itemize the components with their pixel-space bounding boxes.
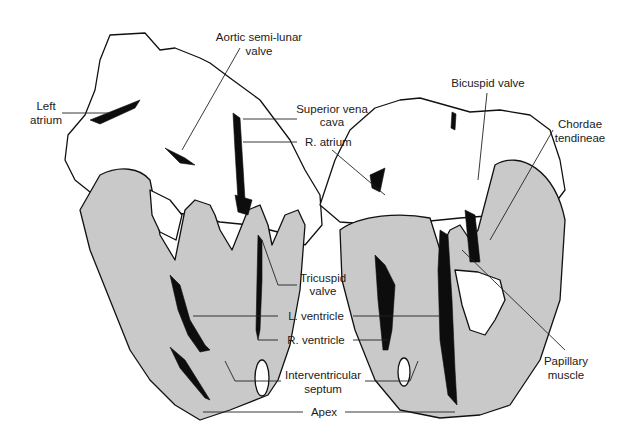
label-septum-1: Interventricular: [285, 369, 361, 381]
label-aortic-valve-2: valve: [246, 45, 273, 57]
label-svc-1: Superior vena: [296, 103, 368, 115]
label-tricuspid-1: Tricuspid: [300, 272, 346, 284]
label-r-atrium: R. atrium: [305, 136, 352, 148]
label-left-atrium-2: atrium: [30, 114, 62, 126]
septum-oval-left: [255, 360, 269, 396]
label-chordae-1: Chordae: [558, 118, 602, 130]
label-left-atrium-1: Left: [36, 100, 56, 112]
label-papillary-1: Papillary: [544, 355, 588, 367]
label-l-ventricle: L. ventricle: [288, 310, 344, 322]
label-bicuspid: Bicuspid valve: [451, 77, 525, 89]
bicuspid-dark: [451, 112, 456, 130]
label-apex: Apex: [311, 406, 337, 418]
label-papillary-2: muscle: [548, 369, 584, 381]
label-septum-2: septum: [304, 383, 342, 395]
septum-oval-right: [398, 358, 410, 386]
heart-anatomy-diagram: Left atrium Aortic semi-lunar valve Supe…: [0, 0, 641, 446]
label-svc-2: cava: [320, 116, 345, 128]
left-heart-section: [65, 33, 322, 420]
label-aortic-valve-1: Aortic semi-lunar: [216, 31, 302, 43]
label-chordae-2: tendineae: [555, 132, 606, 144]
label-tricuspid-2: valve: [310, 285, 337, 297]
label-r-ventricle: R. ventricle: [287, 334, 345, 346]
